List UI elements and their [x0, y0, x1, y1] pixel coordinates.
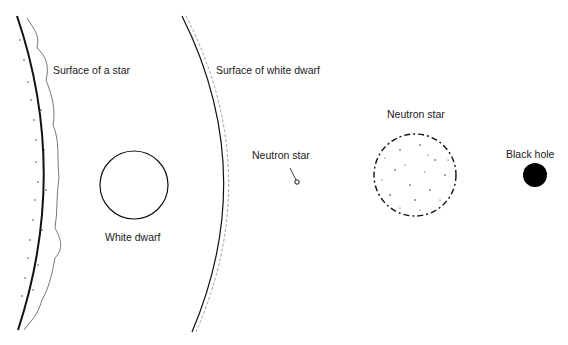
neutron-star-small-label: Neutron star	[252, 149, 310, 161]
neutron-star-small	[290, 168, 299, 184]
white-dwarf-label: White dwarf	[105, 231, 160, 243]
neutron-star-large-label: Neutron star	[387, 108, 445, 120]
black-hole-disc	[523, 163, 547, 187]
star-surface-label: Surface of a star	[53, 64, 130, 76]
white-dwarf-circle	[100, 151, 168, 219]
diagram-canvas	[0, 0, 568, 345]
white-dwarf-surface-label: Surface of white dwarf	[216, 64, 320, 76]
neutron-star-large	[374, 134, 456, 216]
black-hole-label: Black hole	[506, 148, 554, 160]
